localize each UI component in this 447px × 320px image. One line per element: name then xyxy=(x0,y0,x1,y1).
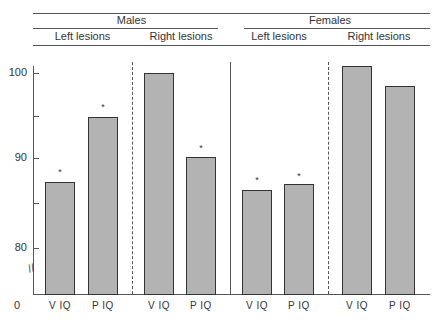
subgroup-label-females-right: Right lesions xyxy=(328,30,430,42)
bar-males-left-piq xyxy=(88,117,118,295)
y-tick-85 xyxy=(33,203,39,204)
axis-break-icon: // xyxy=(26,261,36,274)
header-mid-rule-females xyxy=(244,28,430,29)
x-label-males-left-piq: P IQ xyxy=(83,300,123,311)
bar-males-right-viq xyxy=(144,73,174,295)
header-bottom-rule xyxy=(33,45,430,46)
bar-males-left-viq xyxy=(45,182,75,295)
x-label-females-left-viq: V IQ xyxy=(237,300,277,311)
x-label-females-right-piq: P IQ xyxy=(380,300,420,311)
x-label-females-right-viq: V IQ xyxy=(337,300,377,311)
subgroup-label-males-right: Right lesions xyxy=(132,30,230,42)
x-label-males-right-piq: P IQ xyxy=(181,300,221,311)
y-tick-90 xyxy=(33,158,39,159)
y-tick-95 xyxy=(33,116,39,117)
y-tick-80 xyxy=(33,248,39,249)
y-axis xyxy=(33,66,34,294)
significance-star: * xyxy=(98,102,108,112)
bar-males-right-piq xyxy=(186,157,216,295)
subgroup-label-males-left: Left lesions xyxy=(33,30,132,42)
y-label-80: 80 xyxy=(5,241,27,253)
bar-females-right-viq xyxy=(342,66,372,295)
bar-females-left-viq xyxy=(242,190,272,295)
header-mid-rule-males xyxy=(33,28,218,29)
subgroup-label-females-left: Left lesions xyxy=(230,30,328,42)
y-label-100: 100 xyxy=(5,66,27,78)
significance-star: * xyxy=(196,143,206,153)
x-label-males-right-viq: V IQ xyxy=(139,300,179,311)
bar-females-left-piq xyxy=(284,184,314,295)
y-tick-100 xyxy=(33,73,39,74)
significance-star: * xyxy=(55,167,65,177)
x-label-males-left-viq: V IQ xyxy=(40,300,80,311)
group-label-females: Females xyxy=(230,14,430,26)
group-label-males: Males xyxy=(33,14,230,26)
bar-females-right-piq xyxy=(385,86,415,295)
significance-star: * xyxy=(252,175,262,185)
divider-males-females xyxy=(230,62,231,294)
x-label-females-left-piq: P IQ xyxy=(279,300,319,311)
y-label-zero: 0 xyxy=(0,299,20,311)
significance-star: * xyxy=(294,171,304,181)
divider-males-left-right xyxy=(132,62,133,294)
divider-females-left-right xyxy=(328,62,329,294)
y-label-90: 90 xyxy=(5,151,27,163)
